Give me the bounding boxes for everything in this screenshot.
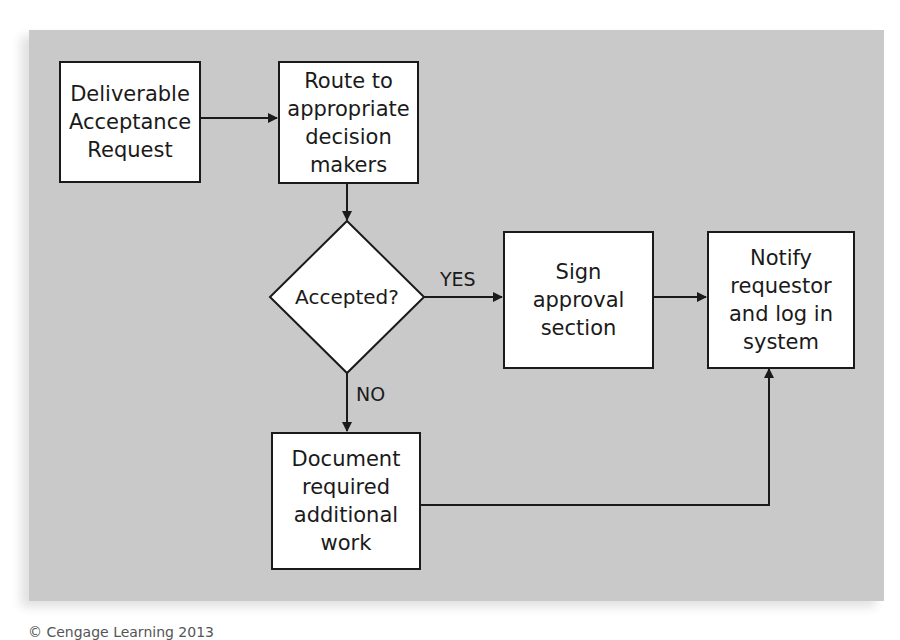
node-label: Document required additional work — [292, 445, 401, 557]
node-label: Accepted? — [295, 285, 399, 309]
node-label: Route to appropriate decision makers — [287, 67, 409, 179]
node-label: Notify requestor and log in system — [729, 244, 833, 356]
node-label: Deliverable Acceptance Request — [69, 80, 191, 164]
node-deliverable-acceptance-request: Deliverable Acceptance Request — [59, 61, 201, 183]
node-document-additional-work: Document required additional work — [271, 432, 421, 570]
node-label: Sign approval section — [533, 258, 625, 342]
decision-accepted-label: Accepted? — [270, 221, 424, 373]
edge-label-yes: YES — [440, 268, 476, 290]
node-sign-approval-section: Sign approval section — [503, 231, 654, 369]
copyright-credit: © Cengage Learning 2013 — [28, 624, 214, 640]
node-route-to-decision-makers: Route to appropriate decision makers — [278, 61, 419, 184]
edge-label-no: NO — [356, 383, 385, 405]
node-notify-requestor-and-log: Notify requestor and log in system — [707, 231, 855, 369]
